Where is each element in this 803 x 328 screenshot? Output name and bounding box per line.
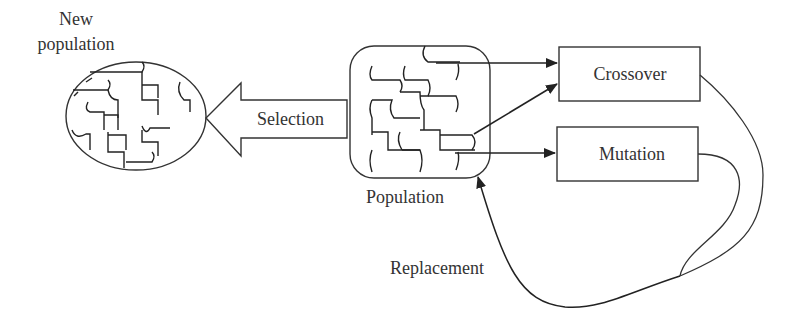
new-population-node — [66, 62, 206, 170]
replacement-label: Replacement — [390, 259, 484, 277]
ga-diagram — [0, 0, 803, 328]
crossover-label: Crossover — [594, 65, 667, 83]
new-population-label-line2: population — [38, 35, 115, 53]
arrow-to-crossover-2 — [474, 84, 557, 134]
population-label: Population — [366, 188, 444, 206]
population-node — [350, 46, 490, 178]
chromosome-squiggles-icon — [72, 62, 190, 168]
new-population-label-line1: New — [59, 10, 93, 28]
replacement-arrow — [478, 177, 680, 307]
selection-label: Selection — [257, 110, 324, 128]
mutation-label: Mutation — [599, 145, 665, 163]
